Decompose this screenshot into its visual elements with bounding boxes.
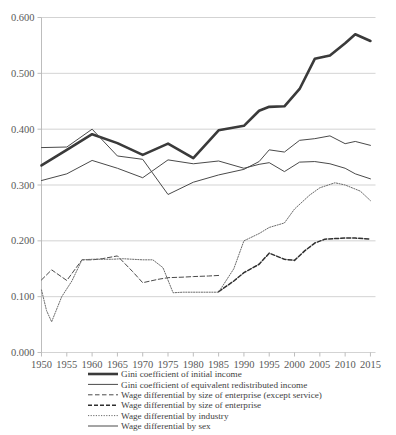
- y-tick-label: 0.100: [11, 291, 35, 302]
- x-tick-label: 1950: [31, 359, 52, 370]
- y-tick-label: 0.600: [11, 12, 35, 23]
- figure-container: 0.0000.1000.2000.3000.4000.5000.600 1950…: [0, 0, 396, 435]
- gridlines-group: [42, 18, 376, 353]
- series-line-2: [42, 256, 219, 283]
- x-tick-label: 1965: [107, 359, 128, 370]
- data-series-group: [42, 34, 371, 322]
- line-chart: 0.0000.1000.2000.3000.4000.5000.600 1950…: [0, 0, 396, 435]
- legend-label-2: Wage differential by size of enterprise …: [121, 390, 322, 400]
- y-tick-label: 0.200: [11, 235, 35, 246]
- x-tick-label: 2000: [284, 359, 305, 370]
- x-axis-tick-labels: 1950195519601965197019751980198519901995…: [31, 359, 381, 370]
- y-axis-tick-labels: 0.0000.1000.2000.3000.4000.5000.600: [11, 12, 35, 358]
- y-tick-label: 0.000: [11, 347, 35, 358]
- x-tick-label: 1955: [56, 359, 77, 370]
- figure-caption-strip: [0, 424, 396, 435]
- legend-label-1: Gini coefficient of equivalent redistrib…: [121, 380, 307, 390]
- x-tick-label: 2010: [335, 359, 356, 370]
- series-line-4: [42, 183, 371, 322]
- y-tick-label: 0.300: [11, 180, 35, 191]
- x-tick-label: 1995: [259, 359, 280, 370]
- chart-legend: Gini coefficient of initial incomeGini c…: [88, 369, 322, 431]
- y-tick-marks-group: [38, 18, 42, 353]
- legend-label-3: Wage differential by size of enterprise: [121, 400, 261, 410]
- series-line-1: [42, 160, 371, 181]
- legend-label-0: Gini coefficient of initial income: [121, 369, 242, 379]
- x-tick-label: 1960: [82, 359, 103, 370]
- series-line-0: [42, 34, 371, 165]
- x-tick-marks-group: [42, 353, 371, 357]
- x-tick-label: 2015: [360, 359, 381, 370]
- x-tick-label: 2005: [309, 359, 330, 370]
- x-tick-label: 1980: [183, 359, 204, 370]
- x-tick-label: 1970: [132, 359, 153, 370]
- series-line-3: [219, 238, 371, 292]
- x-tick-label: 1990: [233, 359, 254, 370]
- x-tick-label: 1975: [158, 359, 179, 370]
- legend-label-4: Wage differential by industry: [121, 411, 229, 421]
- y-tick-label: 0.400: [11, 124, 35, 135]
- x-tick-label: 1985: [208, 359, 229, 370]
- y-tick-label: 0.500: [11, 68, 35, 79]
